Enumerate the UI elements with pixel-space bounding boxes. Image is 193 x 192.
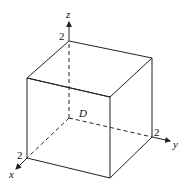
y-axis-label: y (172, 138, 178, 150)
y-tick-label: 2 (154, 126, 160, 138)
cube-top-face (27, 41, 152, 97)
hidden-x-edge (27, 118, 69, 158)
cube-svg: z 2 x 2 y 2 D (0, 0, 193, 192)
z-axis-label: z (65, 8, 71, 20)
z-tick-label: 2 (59, 30, 65, 42)
x-tick-label: 2 (17, 149, 23, 161)
region-label: D (78, 107, 87, 119)
cube-bottom-right-edge (110, 137, 152, 178)
cube-diagram: z 2 x 2 y 2 D (0, 0, 193, 192)
x-axis-label: x (8, 168, 14, 180)
